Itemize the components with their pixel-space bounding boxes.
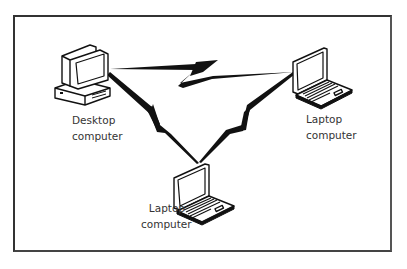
laptop-bottom-label-line1: Laptop — [141, 200, 185, 216]
laptop-right-label: Laptop computer — [306, 111, 357, 143]
laptop-right-label-line1: Laptop — [306, 111, 357, 127]
desktop-computer-label: Desktop computer — [72, 112, 123, 144]
laptop-bottom-label: Laptop computer — [141, 200, 185, 232]
laptop-bottom-label-line2: computer — [141, 216, 185, 232]
laptop-right-label-line2: computer — [306, 127, 357, 143]
desktop-label-line2: computer — [72, 128, 123, 144]
wireless-link-desktop-laptop-right — [110, 60, 295, 88]
desktop-computer-icon — [55, 45, 110, 105]
laptop-computer-icon-right — [293, 48, 352, 109]
desktop-label-line1: Desktop — [72, 112, 123, 128]
wireless-link-laptop-right-laptop-bottom — [199, 72, 295, 163]
